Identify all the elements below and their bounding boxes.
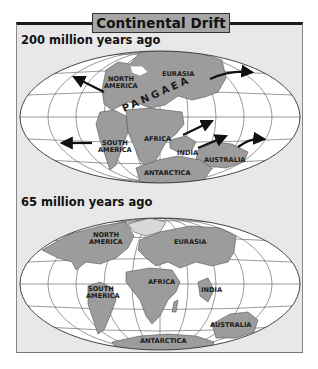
label-eurasia: EURASIA <box>174 238 207 246</box>
label-africa: AFRICA <box>148 278 176 286</box>
label-antarctica: ANTARCTICA <box>144 169 191 177</box>
world-maps: NORTH AMERICA EURASIA PANGAEA SOUTH AMER… <box>0 0 318 369</box>
label-south-america-2: AMERICA <box>86 292 121 300</box>
map-65mya: NORTH AMERICA EURASIA SOUTH AMERICA AFRI… <box>20 218 300 354</box>
label-africa: AFRICA <box>144 135 172 143</box>
label-australia: AUSTRALIA <box>204 156 246 164</box>
map-200mya: NORTH AMERICA EURASIA PANGAEA SOUTH AMER… <box>20 50 300 184</box>
label-australia: AUSTRALIA <box>210 321 252 329</box>
label-north-america-2: AMERICA <box>104 82 139 90</box>
label-south-america-2: AMERICA <box>98 146 133 154</box>
label-india: INDIA <box>177 149 199 157</box>
label-north-america-2: AMERICA <box>89 238 124 246</box>
label-india: INDIA <box>201 286 223 294</box>
label-antarctica: ANTARCTICA <box>140 337 187 345</box>
